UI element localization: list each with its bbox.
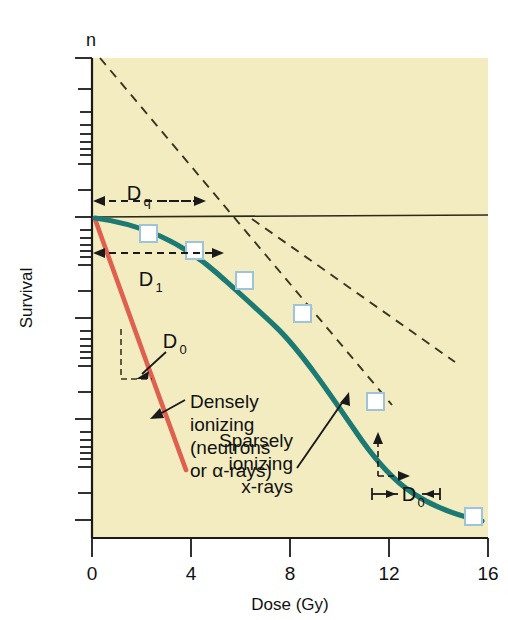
densely-label-line1: Densely (190, 391, 259, 412)
data-point-marker (186, 242, 203, 259)
y-axis-top-label: n (86, 30, 96, 50)
survival-curve-figure: n Survival 0 4 8 12 16 Dose (Gy) (0, 0, 508, 620)
x-tick-label-0: 0 (87, 563, 98, 584)
dq-label: D (127, 182, 141, 204)
x-axis-label: Dose (Gy) (251, 595, 328, 614)
data-point-marker (465, 508, 482, 525)
data-point-marker (140, 225, 157, 242)
dq-label-subscript: q (143, 194, 150, 209)
d0-left-label-subscript: 0 (179, 342, 186, 357)
sparsely-label-line1: Sparsely (219, 430, 293, 451)
data-point-marker (294, 305, 311, 322)
x-tick-label-16: 16 (477, 563, 498, 584)
x-tick-label-12: 12 (378, 563, 399, 584)
d0-right-label: D (402, 483, 416, 505)
sparsely-label-line2: ionizing (229, 453, 293, 474)
y-axis-label: Survival (17, 268, 36, 328)
sparsely-label-line3: x-rays (241, 476, 293, 497)
d1-label: D (139, 268, 153, 290)
x-tick-label-8: 8 (285, 563, 296, 584)
data-point-marker (236, 272, 253, 289)
d0-left-label: D (163, 330, 177, 352)
d1-label-subscript: 1 (155, 280, 162, 295)
x-tick-label-4: 4 (186, 563, 197, 584)
data-point-marker (367, 393, 384, 410)
d0-right-label-subscript: 0 (417, 495, 424, 510)
